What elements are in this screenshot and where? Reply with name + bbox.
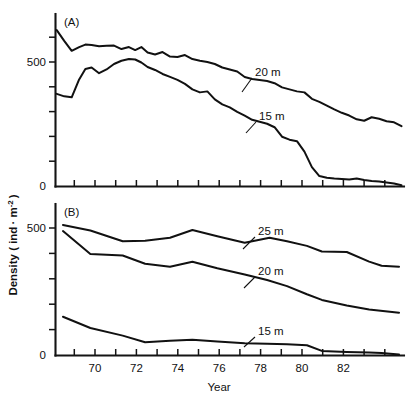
y-axis-title-mid: · m	[7, 207, 19, 224]
panel-b-ytick-500: 500	[27, 222, 46, 234]
panel-b-series-15m	[63, 317, 399, 355]
xtick-82: 82	[337, 362, 350, 374]
y-axis-title: Density ( ind· m-2)	[6, 194, 19, 295]
panel-b-series-20m	[63, 231, 399, 313]
panel-a-label-20m: 20 m	[255, 66, 281, 78]
xtick-72: 72	[130, 362, 143, 374]
svg-text:Density ( ind· m-2): Density ( ind· m-2)	[6, 194, 19, 295]
panel-b-leader-20m	[244, 277, 255, 288]
panel-a-series-15m	[57, 59, 402, 185]
panel-a-ytick-500: 500	[27, 56, 46, 68]
x-tick-labels: 70 72 74 76 78 80 82	[89, 362, 350, 374]
panel-a-ytick-0: 0	[40, 180, 46, 192]
panel-a-label-15m: 15 m	[259, 110, 285, 122]
xtick-76: 76	[213, 362, 226, 374]
panel-a: (A) 500 0	[27, 14, 404, 192]
panel-b: (B) 500 0	[27, 204, 404, 393]
panel-b-label-25m: 25 m	[258, 225, 284, 237]
xtick-70: 70	[89, 362, 102, 374]
panel-a-series-20m	[57, 30, 402, 126]
xtick-74: 74	[171, 362, 184, 374]
y-axis-title-sup: -2	[6, 200, 15, 208]
panel-a-tag: (A)	[64, 16, 80, 28]
panel-b-label-20m: 20 m	[258, 265, 284, 277]
density-time-series-figure: Density ( ind· m-2) (A) 500 0	[0, 0, 411, 398]
x-axis-title: Year	[207, 381, 230, 393]
panel-b-tag: (B)	[64, 206, 80, 218]
panel-a-leader-15m	[246, 122, 256, 133]
panel-a-leader-20m	[242, 78, 252, 92]
panel-b-series-25m	[63, 225, 399, 267]
panel-b-leader-15m	[244, 337, 255, 347]
figure-container: Density ( ind· m-2) (A) 500 0	[0, 0, 411, 398]
y-axis-title-tail: )	[7, 194, 19, 198]
xtick-80: 80	[296, 362, 309, 374]
xtick-78: 78	[254, 362, 267, 374]
y-axis-title-main: Density ( ind	[7, 227, 19, 296]
panel-b-label-15m: 15 m	[258, 325, 284, 337]
panel-b-ytick-0: 0	[40, 349, 46, 361]
